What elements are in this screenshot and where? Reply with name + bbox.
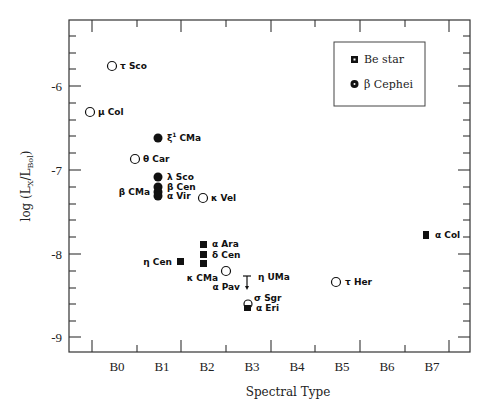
x-tick-label: B5: [334, 359, 349, 374]
y-tick-label: -6: [51, 79, 62, 94]
x-tick-label: B2: [199, 359, 214, 374]
point-unlabeled-be: [200, 260, 207, 267]
point-eta-cen: [177, 258, 184, 265]
label-alpha-ara: α Ara: [212, 239, 239, 249]
x-tick-label: B7: [424, 359, 440, 374]
x-tick-label: B3: [244, 359, 259, 374]
label-beta-cma: β CMa: [119, 187, 150, 197]
point-tau-her: [332, 278, 341, 287]
label-tau-her: τ Her: [345, 277, 373, 287]
label-theta-car: θ Car: [143, 154, 170, 164]
x-tick-label: B1: [154, 359, 169, 374]
x-axis-title: Spectral Type: [246, 385, 331, 399]
label-lambda-sco: λ Sco: [167, 172, 194, 182]
point-kappa-cma: [222, 267, 231, 276]
y-tick-label: -7: [51, 163, 62, 178]
series-normal-b-stars: [86, 62, 341, 309]
label-xi1-cma: ξ1CMa: [167, 131, 201, 143]
scatter-chart: -6 -7 -8 -9 B0 B1 B2 B3 B4 B5 B6 B7 Spec…: [0, 0, 488, 409]
y-axis-title: log (LX/LBol): [19, 151, 35, 222]
label-alpha-col: α Col: [435, 230, 460, 240]
point-mu-col: [86, 108, 95, 117]
point-alpha-eri: [244, 305, 251, 311]
label-mu-col: μ Col: [98, 107, 124, 117]
legend-beta-cephei: β Cephei: [364, 78, 413, 91]
x-tick-label: B4: [289, 359, 305, 374]
point-kappa-vel: [199, 194, 208, 203]
label-eta-uma: η UMa: [258, 272, 290, 282]
point-lambda-sco: [154, 173, 163, 182]
legend: Be star β Cephei: [334, 42, 425, 106]
x-tick-label: B0: [109, 359, 124, 374]
y-tick-label: -8: [51, 247, 62, 262]
point-alpha-col: [423, 231, 429, 239]
point-tau-sco: [108, 62, 117, 71]
label-alpha-eri: α Eri: [256, 303, 279, 313]
label-sigma-sgr: σ Sgr: [254, 293, 282, 303]
upper-limit-eta-uma: [243, 276, 251, 290]
point-alpha-vir: [154, 192, 163, 201]
x-tick-label: B6: [379, 359, 395, 374]
y-tick-label: -9: [51, 330, 62, 345]
point-delta-cen: [200, 251, 207, 258]
y-tick-labels: -6 -7 -8 -9: [51, 79, 62, 345]
label-alpha-pav: α Pav: [212, 282, 240, 292]
point-xi1-cma: [154, 134, 163, 143]
point-alpha-ara: [200, 241, 207, 248]
svg-text:log (LX/LBol): log (LX/LBol): [19, 151, 35, 222]
legend-be-star: Be star: [364, 53, 405, 66]
label-eta-cen: η Cen: [143, 257, 172, 267]
x-tick-labels: B0 B1 B2 B3 B4 B5 B6 B7: [109, 359, 440, 374]
label-tau-sco: τ Sco: [120, 61, 147, 71]
label-kappa-vel: κ Vel: [211, 193, 236, 203]
label-delta-cen: δ Cen: [212, 250, 240, 260]
series-beta-cephei: [154, 134, 163, 201]
label-alpha-vir: α Vir: [167, 191, 191, 201]
point-theta-car: [131, 155, 140, 164]
